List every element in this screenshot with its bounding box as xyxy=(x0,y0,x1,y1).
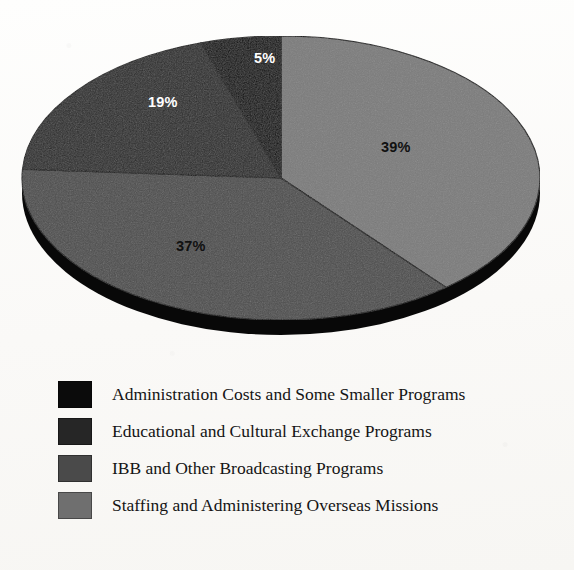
legend-item-staffing-overseas-missions: Staffing and Administering Overseas Miss… xyxy=(58,487,528,524)
legend-swatch-staffing-overseas-missions xyxy=(58,492,92,519)
chart-legend: Administration Costs and Some Smaller Pr… xyxy=(58,376,528,524)
pie-top-face xyxy=(22,36,540,320)
legend-swatch-ibb-broadcasting xyxy=(58,455,92,482)
legend-item-ibb-broadcasting: IBB and Other Broadcasting Programs xyxy=(58,450,528,487)
legend-item-educational-cultural-exchange: Educational and Cultural Exchange Progra… xyxy=(58,413,528,450)
pie-chart-svg xyxy=(0,0,574,360)
legend-item-administration-costs: Administration Costs and Some Smaller Pr… xyxy=(58,376,528,413)
legend-label-ibb-broadcasting: IBB and Other Broadcasting Programs xyxy=(112,460,383,478)
pie-chart-figure: 5% 19% 37% 39% xyxy=(0,0,574,360)
legend-label-staffing-overseas-missions: Staffing and Administering Overseas Miss… xyxy=(112,497,438,515)
legend-swatch-educational-cultural-exchange xyxy=(58,418,92,445)
legend-label-administration-costs: Administration Costs and Some Smaller Pr… xyxy=(112,386,465,404)
legend-swatch-administration-costs xyxy=(58,381,92,408)
legend-label-educational-cultural-exchange: Educational and Cultural Exchange Progra… xyxy=(112,423,432,441)
